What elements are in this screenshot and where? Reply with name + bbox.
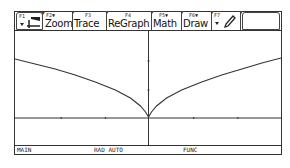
tab-label: Draw: [183, 18, 208, 29]
tab-f8-empty[interactable]: [242, 12, 280, 30]
graph-area[interactable]: [15, 31, 281, 146]
tab-f6-draw[interactable]: F6▼ Draw: [182, 12, 212, 30]
tab-f7-pencil[interactable]: F7: [212, 12, 241, 30]
tab-f2-zoom[interactable]: F2▼ Zoom: [44, 12, 73, 30]
calculator-screen: F1 F2▼ Zoom F3 Trace F4 ReGraph F5▼: [14, 11, 282, 155]
tools-icon: [18, 14, 42, 30]
status-mode: RAD AUTO: [94, 146, 123, 154]
tab-label: Trace: [74, 18, 99, 29]
tab-label: Zoom: [45, 18, 73, 29]
tab-f3-trace[interactable]: F3 Trace: [73, 12, 107, 30]
toolbar: F1 F2▼ Zoom F3 Trace F4 ReGraph F5▼: [15, 12, 281, 31]
tab-label: Math: [153, 18, 177, 29]
status-folder: MAIN: [17, 146, 31, 154]
tab-f1-tools[interactable]: F1: [16, 12, 43, 30]
tab-f5-math[interactable]: F5▼ Math: [152, 12, 182, 30]
tab-label: ReGraph: [108, 18, 149, 29]
status-bar: MAIN RAD AUTO FUNC: [15, 145, 281, 154]
pencil-icon: [213, 13, 237, 29]
status-graph-mode: FUNC: [183, 146, 197, 154]
tab-f4-regraph[interactable]: F4 ReGraph: [107, 12, 152, 30]
